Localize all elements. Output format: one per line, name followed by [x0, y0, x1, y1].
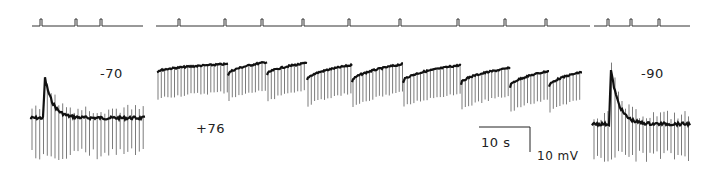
left-stimulus-line — [32, 19, 143, 26]
left-holding-potential-label: -70 — [100, 66, 123, 81]
right-stimulus-line — [594, 19, 690, 26]
middle-stimulus-line — [156, 19, 590, 26]
middle-holding-potential-label: +76 — [196, 121, 225, 136]
voltage-scale-label: 10 mV — [537, 149, 578, 163]
right-holding-potential-label: -90 — [641, 66, 664, 81]
time-scale-label: 10 s — [481, 135, 510, 150]
middle-trace-spikes — [158, 62, 580, 112]
traces-plot — [0, 0, 721, 179]
electrophysiology-figure: -70 +76 -90 10 s 10 mV — [0, 0, 721, 179]
